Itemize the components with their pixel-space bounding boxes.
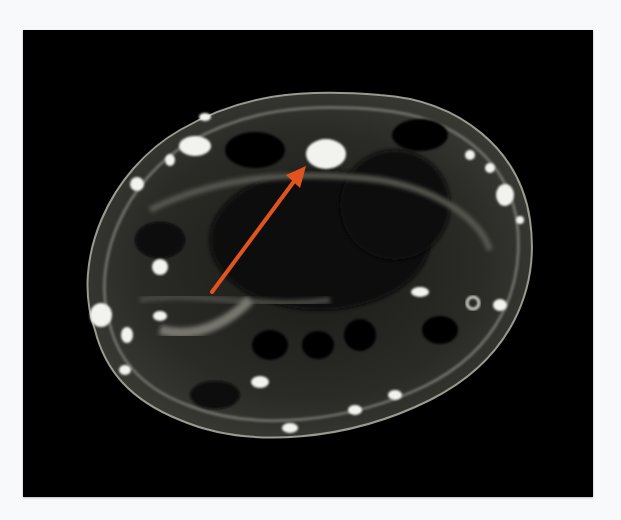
mri-image-panel bbox=[23, 30, 593, 497]
mri-cross-section bbox=[23, 30, 593, 497]
target-lesion bbox=[306, 139, 346, 169]
